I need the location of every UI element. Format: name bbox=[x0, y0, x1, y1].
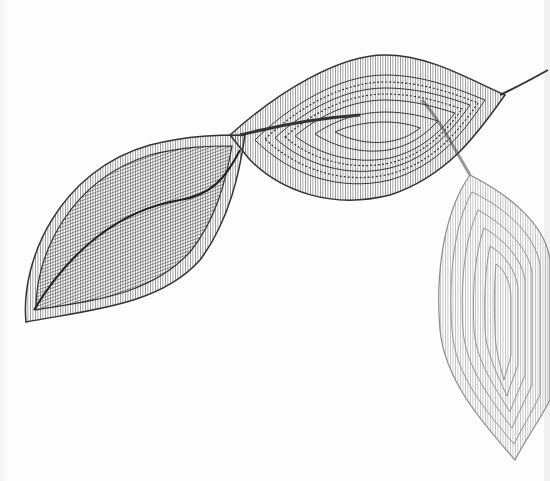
leaves-drawing bbox=[0, 0, 550, 481]
right-leaf bbox=[439, 175, 550, 460]
leaf-illustration bbox=[0, 0, 550, 481]
left-leaf bbox=[25, 135, 245, 322]
middle-leaf bbox=[230, 55, 505, 200]
